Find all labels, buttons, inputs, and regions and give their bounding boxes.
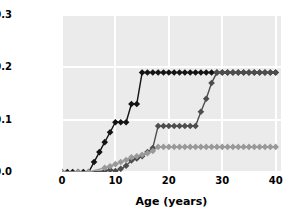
series-light-gray-marker [62,169,65,172]
series-black-marker [101,139,108,146]
series-dark-gray-marker [208,80,215,87]
x-tick-label: 40 [269,175,283,186]
series-dark-gray-marker [198,109,205,116]
series-dark-gray-marker [203,95,210,102]
y-tick-label-text: 0.1 [0,114,12,125]
series-light-gray-marker [75,169,82,172]
series-dark-gray-line [62,73,276,172]
x-tick-label: 30 [215,175,229,186]
series-black [62,69,279,172]
x-axis-title: Age (years) [62,195,281,208]
y-tick-label-text: 0.3 [0,9,12,20]
series-black-marker [133,101,140,108]
x-tick-label: 0 [59,175,66,186]
series-black-marker [123,119,130,126]
series-dark-gray-marker [192,123,199,130]
series-black-marker [91,159,98,166]
series-black-line [62,73,276,172]
y-tick-label-text: 0.2 [0,61,12,72]
series-light-gray-marker [272,144,279,151]
x-tick-label: 10 [108,175,122,186]
plot-area [62,15,281,172]
y-tick-label-text: 0.0 [0,166,12,177]
chart-figure: Proportion Having Made a Suicide Attempt… [0,0,298,222]
series-light-gray [62,144,279,172]
x-tick-label: 20 [162,175,176,186]
series-black-marker [96,149,103,156]
series-dark-gray-marker [272,69,279,76]
series-light-gray-marker [85,169,92,172]
series-black-marker [107,129,114,136]
series-layer [62,15,281,172]
series-dark-gray [62,69,279,172]
